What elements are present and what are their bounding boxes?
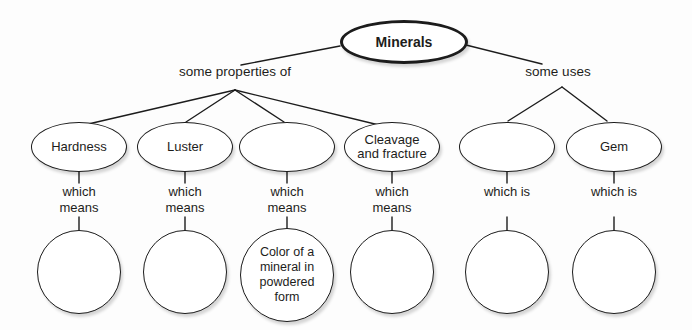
root-node-minerals: Minerals <box>340 20 468 64</box>
definition-circle-color-powdered: Color of a mineral in powdered form <box>240 228 334 322</box>
node-label: Gem <box>600 140 628 154</box>
concept-map: Minerals some properties of some uses Ha… <box>0 0 692 330</box>
use-node-gem: Gem <box>566 122 662 172</box>
link-label-which-means: which means <box>362 184 422 216</box>
property-node-hardness: Hardness <box>31 122 127 172</box>
node-label: Luster <box>167 140 203 154</box>
definition-circle-empty <box>572 230 656 314</box>
property-node-cleavage-fracture: Cleavage and fracture <box>344 122 440 172</box>
definition-circle-empty <box>37 230 121 314</box>
root-node-label: Minerals <box>376 34 433 50</box>
link-label-which-is: which is <box>477 184 537 200</box>
node-label: Hardness <box>51 140 107 154</box>
branch-label-uses: some uses <box>498 64 618 79</box>
property-node-blank <box>239 122 335 172</box>
link-label-which-means: which means <box>257 184 317 216</box>
circle-label: Color of a mineral in powdered form <box>248 245 326 305</box>
link-label-which-is: which is <box>584 184 644 200</box>
definition-circle-empty <box>465 230 549 314</box>
link-label-which-means: which means <box>155 184 215 216</box>
node-label: Cleavage and fracture <box>354 133 430 161</box>
definition-circle-empty <box>143 230 227 314</box>
use-node-blank <box>459 122 555 172</box>
property-node-luster: Luster <box>137 122 233 172</box>
branch-label-properties: some properties of <box>150 64 320 79</box>
link-label-which-means: which means <box>49 184 109 216</box>
definition-circle-empty <box>350 230 434 314</box>
